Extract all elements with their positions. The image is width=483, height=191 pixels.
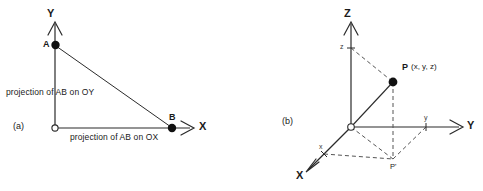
origin-marker — [348, 124, 355, 131]
z-tick-label: z — [340, 43, 344, 50]
segment-op — [351, 82, 393, 127]
y-tick-label: y — [424, 114, 428, 121]
dashed-o-to-pprime — [351, 127, 393, 159]
projection-on-ox-label: projection of AB on OX — [70, 133, 158, 142]
panel-a-caption: (a) — [13, 122, 24, 131]
panel-b-drawing — [241, 0, 483, 191]
projection-on-oy-label: projection of AB on OY — [6, 88, 94, 97]
point-p-label: P — [402, 63, 408, 72]
point-b-marker — [168, 124, 176, 132]
dashed-z-to-p — [351, 48, 393, 82]
panel-a-x-axis-label: X — [199, 121, 207, 132]
panel-b-z-axis-label: Z — [344, 8, 351, 19]
point-b-label: B — [169, 113, 176, 122]
figure-canvas: Y X A B projection of AB on OY projectio… — [0, 0, 483, 191]
panel-b-y-axis-label: Y — [467, 120, 475, 131]
panel-b-x-axis-label: X — [296, 170, 304, 181]
x-axis-line — [309, 127, 351, 169]
origin-marker — [52, 125, 58, 131]
dashed-pprime-to-y — [393, 127, 426, 159]
panel-a-y-axis-label: Y — [47, 8, 55, 19]
point-p-marker — [389, 78, 398, 87]
dashed-x-to-pprime — [324, 154, 393, 159]
point-pprime-label: P' — [390, 163, 396, 171]
point-a-label: A — [43, 40, 50, 49]
point-a-marker — [51, 41, 59, 49]
panel-b-caption: (b) — [282, 117, 293, 126]
x-tick-label: x — [319, 143, 323, 150]
panel-b: Z Y X z y x P (x, y, z) P' (b) — [241, 0, 483, 191]
point-p-coordinates: (x, y, z) — [411, 63, 437, 71]
panel-a: Y X A B projection of AB on OY projectio… — [0, 0, 241, 191]
